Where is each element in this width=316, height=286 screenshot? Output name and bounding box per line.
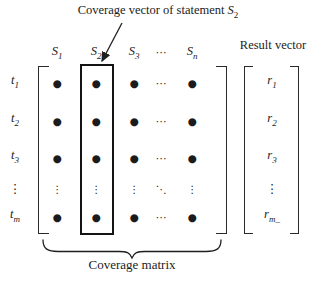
matrix-cell: ●	[183, 75, 201, 91]
coverage-matrix-caption: Coverage matrix	[62, 257, 202, 273]
column-header-s3: S3	[123, 44, 145, 59]
result-entry-r3: r3	[260, 148, 284, 163]
result-vector-label: Result vector	[234, 38, 312, 53]
matrix-cell: ●	[125, 113, 143, 129]
matrix-cell-vdots: ⋮	[48, 181, 66, 197]
row-label-vdots: ⋮	[3, 181, 27, 196]
row-label-t3: t3	[3, 148, 27, 163]
matrix-cell: ●	[183, 209, 201, 225]
coverage-matrix-figure: Coverage vector of statement S2 Result v…	[0, 0, 316, 286]
result-bracket-left	[244, 66, 253, 234]
matrix-cell-ddots: ⋱	[152, 181, 170, 197]
annotation-text: Coverage vector of statement	[78, 3, 228, 17]
coverage-vector-annotation: Coverage vector of statement S2	[58, 3, 258, 18]
s2-column-highlight-box	[80, 64, 114, 235]
matrix-cell: ⋯	[152, 150, 170, 166]
result-entry-vdots: ⋮	[260, 181, 284, 196]
row-label-t1: t1	[3, 73, 27, 88]
matrix-cell: ●	[48, 209, 66, 225]
annotation-symbol-sub: 2	[234, 10, 239, 20]
matrix-cell: ●	[125, 75, 143, 91]
matrix-cell: ●	[48, 113, 66, 129]
column-header-ellipsis: ⋯	[150, 46, 172, 58]
column-header-sn: Sn	[181, 44, 203, 59]
result-entry-rm: rm_	[260, 207, 284, 222]
matrix-cell: ⋯	[152, 75, 170, 91]
matrix-cell: ●	[125, 150, 143, 166]
result-bracket-right	[290, 66, 299, 234]
result-entry-r1: r1	[260, 73, 284, 88]
matrix-cell: ●	[48, 75, 66, 91]
matrix-cell-vdots: ⋮	[125, 181, 143, 197]
matrix-cell: ●	[48, 150, 66, 166]
matrix-bracket-right	[216, 66, 227, 234]
coverage-matrix-brace	[43, 240, 221, 258]
matrix-cell: ●	[125, 209, 143, 225]
matrix-cell: ●	[183, 113, 201, 129]
matrix-cell: ⋯	[152, 209, 170, 225]
result-entry-r2: r2	[260, 111, 284, 126]
matrix-cell: ●	[183, 150, 201, 166]
row-label-t2: t2	[3, 111, 27, 126]
column-header-s1: S1	[46, 44, 68, 59]
matrix-cell-vdots: ⋮	[183, 181, 201, 197]
matrix-cell: ⋯	[152, 113, 170, 129]
column-header-s2: S2	[85, 44, 107, 59]
row-label-tm: tm	[3, 207, 27, 222]
